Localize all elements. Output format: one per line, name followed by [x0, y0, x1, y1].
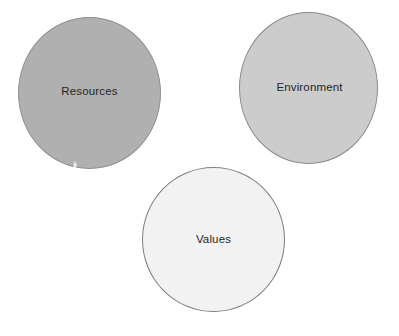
circle-values[interactable]: Values — [142, 167, 285, 312]
scan-artifact-speck — [73, 161, 77, 170]
circle-environment-label: Environment — [276, 82, 342, 94]
diagram-canvas: Resources Environment Values — [0, 0, 399, 336]
circle-resources[interactable]: Resources — [18, 17, 161, 169]
circle-resources-label: Resources — [61, 86, 117, 98]
circle-values-label: Values — [196, 234, 231, 246]
circle-environment[interactable]: Environment — [239, 12, 378, 164]
